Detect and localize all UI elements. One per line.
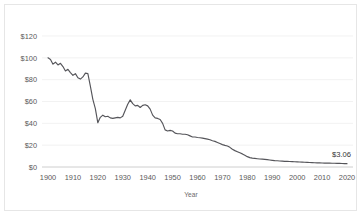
x-axis-tick-label: 1910 <box>65 173 81 182</box>
y-axis-tick-label: $60 <box>25 97 37 106</box>
chart-container: $120$100$80$60$40$20$0 19001910192019301… <box>4 4 357 211</box>
y-axis-tick-label: $100 <box>21 54 37 63</box>
x-axis-tick-label: 2020 <box>339 173 355 182</box>
gridlines <box>42 36 353 167</box>
x-axis-tick-label: 1950 <box>164 173 180 182</box>
y-axis-tick-labels: $120$100$80$60$40$20$0 <box>21 32 37 172</box>
x-axis-tick-label: 2010 <box>314 173 330 182</box>
data-point-annotations: $3.06 <box>332 150 351 159</box>
line-chart: $120$100$80$60$40$20$0 19001910192019301… <box>5 5 363 217</box>
y-axis-tick-label: $0 <box>29 163 37 172</box>
x-axis-tick-label: 1920 <box>90 173 106 182</box>
data-series-line <box>48 58 347 164</box>
y-axis-tick-label: $120 <box>21 32 37 41</box>
y-axis-tick-label: $40 <box>25 119 37 128</box>
x-axis-tick-label: 2000 <box>289 173 305 182</box>
x-axis-tick-label: 1940 <box>139 173 155 182</box>
x-axis-tick-label: 1980 <box>239 173 255 182</box>
x-axis-tick-label: 1930 <box>115 173 131 182</box>
y-axis-tick-label: $20 <box>25 141 37 150</box>
data-point-label: $3.06 <box>332 150 351 159</box>
y-axis-tick-label: $80 <box>25 75 37 84</box>
x-axis-title: Year <box>184 191 198 198</box>
x-axis-tick-label: 1970 <box>214 173 230 182</box>
x-axis-tick-label: 1960 <box>189 173 205 182</box>
x-axis-tick-label: 1990 <box>264 173 280 182</box>
x-axis-tick-label: 1900 <box>40 173 56 182</box>
x-axis-tick-labels: 1900191019201930194019501960197019801990… <box>40 173 355 182</box>
